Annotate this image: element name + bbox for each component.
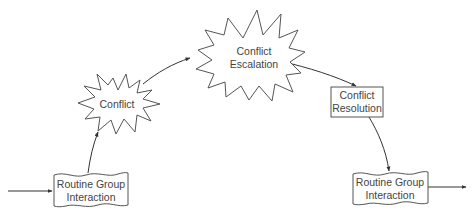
node-label-line-2: Resolution xyxy=(332,102,382,114)
node-conflict-resolution: Conflict Resolution xyxy=(331,87,383,117)
node-label-line-1: Conflict xyxy=(236,45,271,57)
node-label-line-1: Routine Group xyxy=(356,176,424,188)
node-label-line-2: Escalation xyxy=(230,58,279,70)
node-routine-group-interaction-start: Routine Group Interaction xyxy=(54,173,128,207)
edge-conflict-to-escalation xyxy=(143,58,190,84)
conflict-cycle-diagram: Routine Group Interaction Conflict Confl… xyxy=(0,0,474,217)
node-conflict: Conflict xyxy=(78,74,160,134)
node-label-line-1: Conflict xyxy=(339,89,374,101)
node-conflict-escalation: Conflict Escalation xyxy=(196,10,305,101)
edge-resolution-to-routine xyxy=(369,117,389,171)
edge-routine-to-conflict xyxy=(88,132,98,173)
node-routine-group-interaction-end: Routine Group Interaction xyxy=(353,172,428,205)
node-label-line-2: Interaction xyxy=(66,191,115,203)
node-label-line-2: Interaction xyxy=(365,189,414,201)
node-label-line-1: Conflict xyxy=(99,98,134,110)
node-label-line-1: Routine Group xyxy=(57,178,125,190)
